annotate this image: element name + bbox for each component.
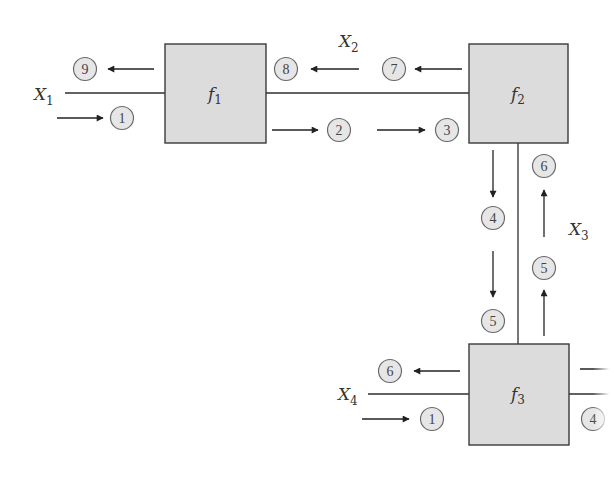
svg-text:1: 1: [429, 412, 436, 427]
marker-f3-right: 4: [582, 408, 605, 431]
marker-x4-in: 1: [421, 408, 444, 431]
svg-text:6: 6: [387, 364, 394, 379]
svg-text:7: 7: [391, 62, 398, 77]
marker-x1-in: 1: [111, 107, 134, 130]
variable-x2-label: X2: [337, 31, 359, 55]
marker-x2-right-out: 7: [383, 58, 406, 81]
svg-text:8: 8: [283, 62, 290, 77]
marker-x3-up-bottom: 5: [533, 257, 556, 280]
block-f2[interactable]: f2: [469, 44, 568, 143]
marker-x1-out: 9: [74, 58, 97, 81]
variable-x1-label: X1: [32, 84, 54, 108]
block-f3[interactable]: f3: [469, 344, 569, 445]
svg-text:4: 4: [590, 412, 597, 427]
marker-x3-down-top: 4: [482, 207, 505, 230]
marker-x2-left-out: 8: [275, 58, 298, 81]
variable-x3-label: X3: [567, 219, 589, 243]
marker-x4-out: 6: [379, 360, 402, 383]
diagram-canvas: f1 f2 f3 X1 X2 X3 X4 9 1 8: [0, 0, 615, 478]
svg-text:5: 5: [541, 261, 548, 276]
marker-x2-left-in: 2: [328, 119, 351, 142]
svg-text:6: 6: [541, 159, 548, 174]
svg-text:3: 3: [444, 123, 451, 138]
svg-text:1: 1: [119, 111, 126, 126]
svg-text:9: 9: [82, 62, 89, 77]
block-f1[interactable]: f1: [165, 44, 266, 143]
svg-text:2: 2: [336, 123, 343, 138]
marker-x3-down-bottom: 5: [482, 310, 505, 333]
svg-text:4: 4: [490, 211, 497, 226]
svg-text:5: 5: [490, 314, 497, 329]
variable-x4-label: X4: [336, 384, 358, 408]
marker-x2-right-in: 3: [436, 119, 459, 142]
marker-x3-up-top: 6: [533, 155, 556, 178]
